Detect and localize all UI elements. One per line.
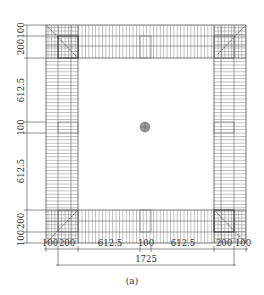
dim-left-3: 612.5 bbox=[16, 78, 26, 102]
dim-bottom-4: 100 bbox=[138, 238, 154, 248]
dim-left-6: 200 bbox=[16, 213, 26, 229]
dim-left-7: 100 bbox=[16, 230, 26, 246]
dim-bottom-6: 200 bbox=[216, 238, 232, 248]
dim-left-1: 100 bbox=[16, 22, 26, 38]
dim-bottom-2: 200 bbox=[59, 238, 75, 248]
dim-total: 1725 bbox=[135, 254, 157, 264]
dim-left-4: 100 bbox=[16, 119, 26, 135]
center-load-marker bbox=[140, 122, 150, 132]
dim-bottom-3: 612.5 bbox=[98, 238, 122, 248]
dim-bottom-5: 612.5 bbox=[171, 238, 195, 248]
dim-left-5: 612.5 bbox=[16, 159, 26, 183]
left-dimension-labels: 100 200 612.5 100 612.5 200 100 bbox=[16, 22, 26, 246]
figure-caption: (a) bbox=[0, 276, 264, 286]
dim-bottom-1: 100 bbox=[42, 238, 58, 248]
bottom-dimension-labels: 100 200 612.5 100 612.5 200 100 1725 bbox=[42, 238, 251, 264]
figure-canvas: 100 200 612.5 100 612.5 200 100 100 200 … bbox=[0, 0, 264, 295]
dim-bottom-7: 100 bbox=[235, 238, 251, 248]
dim-left-2: 200 bbox=[16, 39, 26, 55]
mesh-plan-diagram: 100 200 612.5 100 612.5 200 100 100 200 … bbox=[0, 0, 264, 295]
left-dimension bbox=[24, 25, 46, 243]
